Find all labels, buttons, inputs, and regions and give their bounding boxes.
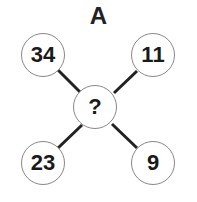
node-bottom-left: 23 bbox=[21, 141, 65, 185]
node-top-left: 34 bbox=[21, 33, 65, 77]
node-center-unknown: ? bbox=[73, 85, 117, 129]
node-bottom-right: 9 bbox=[131, 141, 175, 185]
node-top-right: 11 bbox=[131, 33, 175, 77]
